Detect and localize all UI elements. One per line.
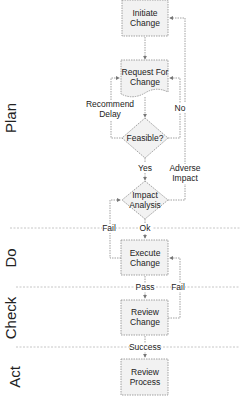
phase-label-do: Do: [2, 248, 19, 267]
edge-label-recommend-1: Recommend: [86, 99, 134, 109]
edge-label-yes: Yes: [138, 163, 152, 173]
edge-label-ok: Ok: [140, 223, 152, 233]
rfc-label-1: Request For: [122, 67, 169, 77]
phase-label-check: Check: [2, 296, 19, 339]
edge-label-recommend-2: Delay: [99, 109, 121, 119]
execute-change-label-2: Change: [130, 258, 160, 268]
initiate-change-label-2: Change: [130, 18, 160, 28]
edge-label-adverse-1: Adverse: [169, 163, 200, 173]
edge-label-success: Success: [129, 342, 161, 352]
impact-analysis-label-1: Impact: [132, 190, 158, 200]
edge-label-no: No: [175, 103, 186, 113]
impact-analysis-label-2: Analysis: [129, 200, 161, 210]
initiate-change-label-1: Initiate: [132, 8, 157, 18]
review-process-label-2: Process: [130, 377, 161, 387]
rfc-label-2: Change: [130, 77, 160, 87]
edge-label-fail-review: Fail: [171, 282, 185, 292]
feasible-label: Feasible?: [127, 133, 164, 143]
edge-label-fail-impact: Fail: [102, 223, 116, 233]
edge-label-adverse-2: Impact: [172, 173, 198, 183]
phase-label-act: Act: [6, 365, 23, 388]
review-change-label-1: Review: [131, 307, 160, 317]
edge-label-pass: Pass: [136, 282, 155, 292]
execute-change-label-1: Execute: [130, 248, 161, 258]
phase-label-plan: Plan: [2, 103, 19, 133]
review-change-label-2: Change: [130, 317, 160, 327]
review-process-label-1: Review: [131, 367, 160, 377]
pdca-flowchart: Plan Do Check Act Initi: [0, 0, 240, 400]
